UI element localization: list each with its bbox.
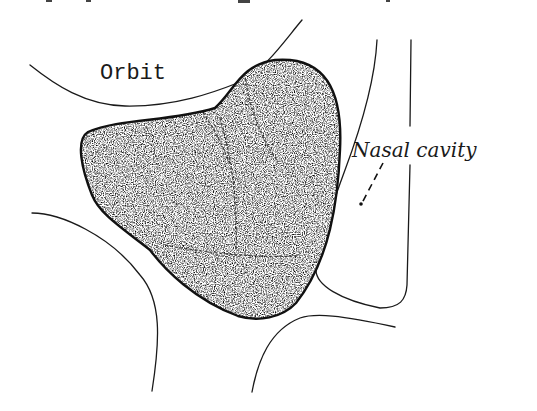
leader-dot — [359, 202, 363, 206]
nasal-septum-line — [410, 40, 411, 126]
nasal-cavity-label: Nasal cavity — [351, 138, 477, 162]
anatomy-diagram: Orbit Nasal cavity — [0, 0, 537, 411]
nasal-cavity-leader — [362, 163, 383, 203]
orbit-label: Orbit — [100, 61, 166, 86]
lower-right-outline — [252, 315, 395, 392]
top-edge-text-fragments — [46, 0, 390, 3]
